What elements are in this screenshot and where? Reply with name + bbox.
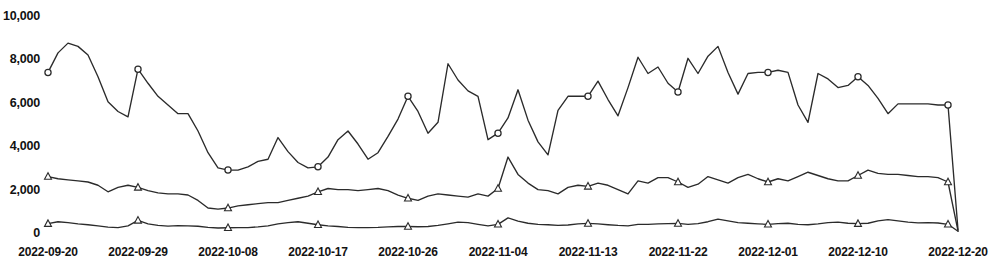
data-point-marker-triangle	[45, 173, 52, 180]
y-axis-tick-label: 4,000	[0, 140, 40, 153]
x-axis-tick-label: 2022-10-26	[378, 246, 437, 258]
data-point-marker-circle	[675, 89, 681, 95]
data-point-marker-circle	[405, 93, 411, 99]
series-line-1	[48, 43, 958, 230]
data-point-marker-circle	[225, 167, 231, 173]
x-axis-tick-label: 2022-12-20	[928, 246, 987, 258]
x-axis-tick-label: 2022-10-08	[198, 246, 257, 258]
data-point-marker-triangle	[495, 185, 502, 192]
data-point-marker-circle	[945, 102, 951, 108]
y-axis-tick-label: 6,000	[0, 97, 40, 110]
x-axis-tick-label: 2022-12-10	[828, 246, 887, 258]
x-axis-tick-label: 2022-11-22	[649, 246, 708, 258]
data-point-marker-circle	[855, 74, 861, 80]
x-axis-tick-label: 2022-09-29	[108, 246, 167, 258]
data-point-marker-triangle	[495, 221, 502, 228]
y-axis-tick-label: 2,000	[0, 183, 40, 196]
y-axis-tick-label: 10,000	[0, 10, 40, 23]
series-line-3	[48, 218, 958, 231]
data-point-marker-triangle	[135, 217, 142, 224]
x-axis-tick-label: 2022-09-20	[18, 246, 77, 258]
data-point-marker-triangle	[855, 172, 862, 179]
data-point-marker-circle	[135, 66, 141, 72]
data-point-marker-circle	[315, 164, 321, 170]
line-chart: 02,0004,0006,0008,00010,000 2022-09-2020…	[0, 0, 990, 262]
data-point-marker-circle	[765, 69, 771, 75]
y-axis-tick-label: 0	[0, 227, 40, 240]
data-point-marker-circle	[495, 130, 501, 136]
series-line-2	[48, 157, 958, 231]
data-point-marker-circle	[585, 93, 591, 99]
x-axis-tick-label: 2022-10-17	[288, 246, 347, 258]
x-axis-tick-label: 2022-12-01	[738, 246, 797, 258]
y-axis-tick-label: 8,000	[0, 53, 40, 66]
chart-plot-area	[0, 0, 990, 262]
x-axis-tick-label: 2022-11-13	[559, 246, 618, 258]
x-axis-tick-label: 2022-11-04	[469, 246, 528, 258]
data-point-marker-circle	[45, 69, 51, 75]
